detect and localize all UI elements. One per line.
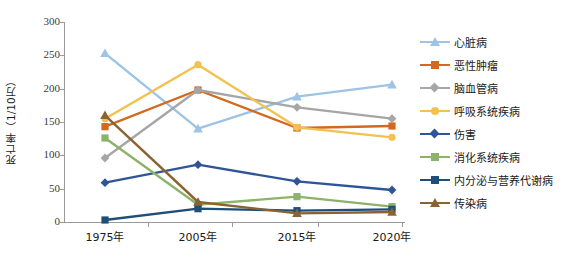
legend-key-swatch: [420, 36, 450, 48]
legend-marker-square-icon: [431, 176, 439, 184]
x-tick-label: 2005年: [163, 228, 233, 244]
legend-item-7[interactable]: 传染病: [420, 191, 580, 214]
x-tick-mark: [402, 222, 403, 227]
legend-label: 伤害: [454, 126, 476, 142]
series-line: [105, 209, 392, 220]
data-point-marker: [100, 49, 110, 58]
legend-key-swatch: [420, 197, 450, 209]
series-line: [105, 90, 392, 158]
data-point-marker: [292, 209, 302, 218]
x-tick-label: 2015年: [262, 228, 332, 244]
series-2: [101, 86, 397, 163]
data-point-marker: [293, 103, 302, 112]
legend-item-4[interactable]: 伤害: [420, 122, 580, 145]
legend-key-swatch: [420, 82, 450, 94]
series-6: [101, 205, 395, 224]
x-tick-label: 1975年: [70, 228, 140, 244]
data-point-marker: [388, 134, 395, 141]
y-tick-mark: [60, 189, 65, 190]
data-point-marker: [100, 111, 110, 120]
legend-marker-square-icon: [431, 153, 439, 161]
y-axis-tick-labels: 300250200150100500: [22, 0, 60, 257]
legend-label: 恶性肿瘤: [454, 57, 498, 73]
y-tick-mark: [60, 22, 65, 23]
data-point-marker: [388, 206, 395, 213]
series-line: [105, 115, 392, 213]
series-line: [105, 90, 392, 128]
data-point-marker: [293, 193, 300, 200]
series-1: [101, 86, 395, 131]
data-point-marker: [194, 61, 201, 68]
series-5: [101, 134, 395, 210]
series-4: [101, 160, 397, 194]
data-point-marker: [194, 201, 201, 208]
data-point-marker: [388, 122, 395, 129]
data-point-marker: [388, 114, 397, 123]
data-point-marker: [193, 197, 203, 206]
data-point-marker: [194, 86, 203, 95]
legend-key-swatch: [420, 174, 450, 186]
legend-marker-circle-icon: [431, 107, 439, 115]
data-point-marker: [387, 80, 397, 89]
legend-item-6[interactable]: 内分泌与营养代谢病: [420, 168, 580, 191]
data-point-marker: [387, 207, 397, 216]
legend-label: 脑血管病: [454, 80, 498, 96]
legend-item-1[interactable]: 恶性肿瘤: [420, 53, 580, 76]
series-7: [100, 111, 397, 218]
legend-label: 内分泌与营养代谢病: [454, 172, 553, 188]
x-tick-mark: [318, 222, 319, 227]
y-tick-mark: [60, 222, 65, 223]
data-point-marker: [388, 203, 395, 210]
legend-marker-triangle-icon: [430, 37, 440, 46]
legend-marker-triangle-icon: [430, 198, 440, 207]
y-tick-mark: [60, 122, 65, 123]
mortality-rate-line-chart: 死亡率（1/10万） 300250200150100500 1975年2005年…: [0, 0, 582, 257]
x-tick-mark: [232, 222, 233, 227]
y-tick-label: 200: [26, 82, 60, 94]
data-point-marker: [194, 86, 201, 93]
x-tick-mark: [148, 222, 149, 227]
legend-label: 传染病: [454, 195, 487, 211]
y-tick-label: 0: [26, 215, 60, 227]
legend-label: 呼吸系统疾病: [454, 103, 520, 119]
x-axis-line: [64, 222, 405, 223]
y-tick-label: 100: [26, 148, 60, 160]
data-point-marker: [293, 177, 302, 186]
series-line: [105, 65, 392, 138]
data-point-marker: [293, 207, 300, 214]
y-tick-label: 300: [26, 15, 60, 27]
y-tick-label: 150: [26, 115, 60, 127]
data-point-marker: [292, 92, 302, 101]
data-point-marker: [101, 154, 110, 163]
y-tick-mark: [60, 155, 65, 156]
legend-label: 心脏病: [454, 34, 487, 50]
chart-legend: 心脏病恶性肿瘤脑血管病呼吸系统疾病伤害消化系统疾病内分泌与营养代谢病传染病: [420, 30, 580, 214]
legend-label: 消化系统疾病: [454, 149, 520, 165]
y-tick-mark: [60, 89, 65, 90]
legend-item-3[interactable]: 呼吸系统疾病: [420, 99, 580, 122]
legend-item-5[interactable]: 消化系统疾病: [420, 145, 580, 168]
data-point-marker: [194, 160, 203, 169]
legend-item-0[interactable]: 心脏病: [420, 30, 580, 53]
series-3: [101, 61, 395, 141]
y-axis-title: 死亡率（1/10万）: [2, 28, 20, 213]
series-line: [105, 53, 392, 128]
y-tick-label: 250: [26, 48, 60, 60]
data-point-marker: [293, 124, 300, 131]
series-line: [105, 138, 392, 207]
data-point-marker: [101, 178, 110, 187]
data-point-marker: [101, 115, 108, 122]
legend-key-swatch: [420, 128, 450, 140]
legend-key-swatch: [420, 151, 450, 163]
data-point-marker: [101, 123, 108, 130]
x-tick-label: 2020年: [357, 228, 427, 244]
legend-key-swatch: [420, 59, 450, 71]
legend-item-2[interactable]: 脑血管病: [420, 76, 580, 99]
data-point-marker: [101, 134, 108, 141]
legend-marker-diamond-icon: [430, 129, 440, 139]
series-line: [105, 165, 392, 190]
y-tick-label: 50: [26, 182, 60, 194]
y-tick-mark: [60, 55, 65, 56]
data-point-marker: [194, 205, 201, 212]
legend-key-swatch: [420, 105, 450, 117]
